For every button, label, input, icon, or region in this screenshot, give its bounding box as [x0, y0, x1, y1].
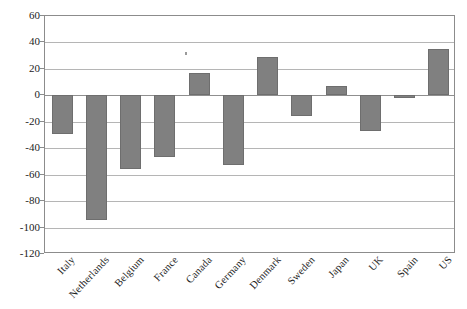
- x-tick-label: Spain: [395, 254, 420, 280]
- bar: [154, 95, 175, 157]
- y-tick-label: -20: [2, 116, 40, 126]
- y-tick-label: 20: [2, 63, 40, 73]
- y-tick-label: -40: [2, 142, 40, 152]
- y-tick-label: 40: [2, 36, 40, 46]
- x-tick-label: France: [152, 254, 180, 283]
- plot-area: [44, 15, 455, 253]
- x-tick-label: US: [436, 254, 453, 272]
- x-axis: ItalyNetherlandsBelgiumFranceCanadaGerma…: [44, 254, 455, 309]
- x-tick-label: Italy: [55, 254, 77, 276]
- gridline: [45, 42, 454, 43]
- x-tick-label: Denmark: [247, 254, 283, 291]
- bar: [189, 73, 210, 95]
- gridline: [45, 69, 454, 70]
- y-axis: 6040200-20-40-60-80-100-120: [0, 15, 40, 253]
- gridline: [45, 228, 454, 229]
- bar: [86, 95, 107, 219]
- bar: [257, 57, 278, 95]
- y-tick-label: -100: [2, 222, 40, 232]
- bar: [223, 95, 244, 165]
- bar: [52, 95, 73, 133]
- bar: [120, 95, 141, 169]
- x-tick-label: Canada: [184, 254, 214, 285]
- x-tick-label: Sweden: [285, 254, 317, 287]
- y-tick-label: 60: [2, 10, 40, 20]
- x-tick-label: Belgium: [112, 254, 146, 289]
- bar: [428, 49, 449, 95]
- y-tick-label: -60: [2, 169, 40, 179]
- bar-chart: 6040200-20-40-60-80-100-120 ItalyNetherl…: [0, 0, 467, 309]
- artifact-speck: [185, 52, 187, 55]
- x-tick-label: UK: [367, 254, 386, 273]
- y-tick-label: -120: [2, 248, 40, 258]
- bar: [394, 95, 415, 98]
- x-tick-label: Germany: [213, 254, 249, 291]
- bar: [291, 95, 312, 116]
- y-tick-label: 0: [2, 89, 40, 99]
- x-tick-label: Japan: [326, 254, 351, 280]
- y-tick-label: -80: [2, 195, 40, 205]
- bar: [360, 95, 381, 131]
- bar: [326, 86, 347, 95]
